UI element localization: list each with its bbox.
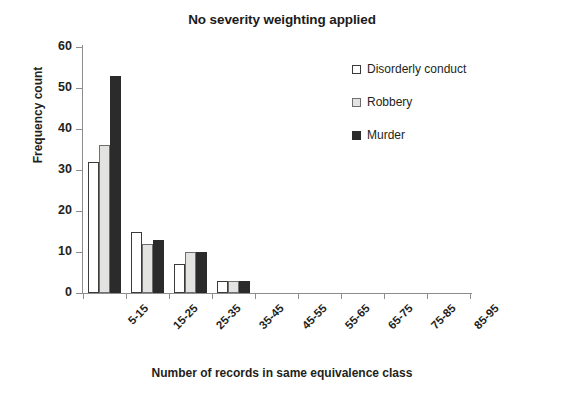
y-axis-ticks: 0102030405060 (14, 0, 72, 397)
legend-item-label: Robbery (367, 95, 412, 109)
bar (88, 162, 99, 293)
bar-group (212, 47, 255, 293)
x-axis-tick-mark (298, 293, 299, 299)
x-axis-category-label: 35-45 (256, 302, 285, 331)
x-axis-tick-mark (126, 293, 127, 299)
x-axis-tick-mark (255, 293, 256, 299)
x-axis-tick-mark (384, 293, 385, 299)
bar (196, 252, 207, 293)
y-axis-tick-label: 10 (18, 244, 72, 258)
x-axis-category-label: 5-15 (125, 302, 150, 327)
legend-item-label: Disorderly conduct (367, 62, 466, 76)
y-axis-tick-mark (76, 88, 82, 89)
x-axis-category-label: 85-95 (471, 302, 500, 331)
y-axis-tick-label: 40 (18, 121, 72, 135)
x-axis-title: Number of records in same equivalence cl… (0, 366, 564, 380)
y-axis-tick-mark (76, 170, 82, 171)
y-axis-tick-label: 0 (18, 285, 72, 299)
legend-item[interactable]: Disorderly conduct (352, 62, 542, 76)
y-axis-tick-label: 50 (18, 80, 72, 94)
bar (185, 252, 196, 293)
x-axis-tick-mark (83, 293, 84, 299)
y-axis-tick-mark (76, 293, 82, 294)
square-open-icon (352, 65, 361, 74)
y-axis-tick-label: 60 (18, 39, 72, 53)
bar (153, 240, 164, 293)
bar (131, 232, 142, 294)
y-axis-tick-mark (76, 129, 82, 130)
chart-legend: Disorderly conductRobberyMurder (352, 62, 542, 161)
bar-group (169, 47, 212, 293)
legend-item[interactable]: Murder (352, 128, 542, 142)
bar (228, 281, 239, 293)
x-axis-category-label: 55-65 (342, 302, 371, 331)
y-axis-tick-label: 20 (18, 203, 72, 217)
square-filled-icon (352, 131, 361, 140)
x-axis-category-label: 65-75 (385, 302, 414, 331)
x-axis-category-label: 25-35 (213, 302, 242, 331)
bar (174, 264, 185, 293)
y-axis-tick-mark (76, 252, 82, 253)
y-axis-tick-mark (76, 211, 82, 212)
bar-group (298, 47, 341, 293)
bar-group (255, 47, 298, 293)
y-axis-tick-mark (76, 47, 82, 48)
x-axis-tick-mark (212, 293, 213, 299)
bar (142, 244, 153, 293)
bar (99, 145, 110, 293)
chart-title: No severity weighting applied (0, 12, 564, 27)
x-axis-category-label: 75-85 (428, 302, 457, 331)
bar-chart: No severity weighting applied Frequency … (0, 0, 564, 397)
x-axis-tick-mark (169, 293, 170, 299)
bar (217, 281, 228, 293)
bar (239, 281, 250, 293)
bar-group (83, 47, 126, 293)
legend-item[interactable]: Robbery (352, 95, 542, 109)
bar (110, 76, 121, 293)
x-axis-category-label: 45-55 (299, 302, 328, 331)
bar-group (126, 47, 169, 293)
x-axis-tick-mark (341, 293, 342, 299)
x-axis-category-label: 15-25 (170, 302, 199, 331)
square-gray-icon (352, 98, 361, 107)
y-axis-tick-label: 30 (18, 162, 72, 176)
x-axis-tick-mark (470, 293, 471, 299)
x-axis-tick-mark (427, 293, 428, 299)
legend-item-label: Murder (367, 128, 405, 142)
